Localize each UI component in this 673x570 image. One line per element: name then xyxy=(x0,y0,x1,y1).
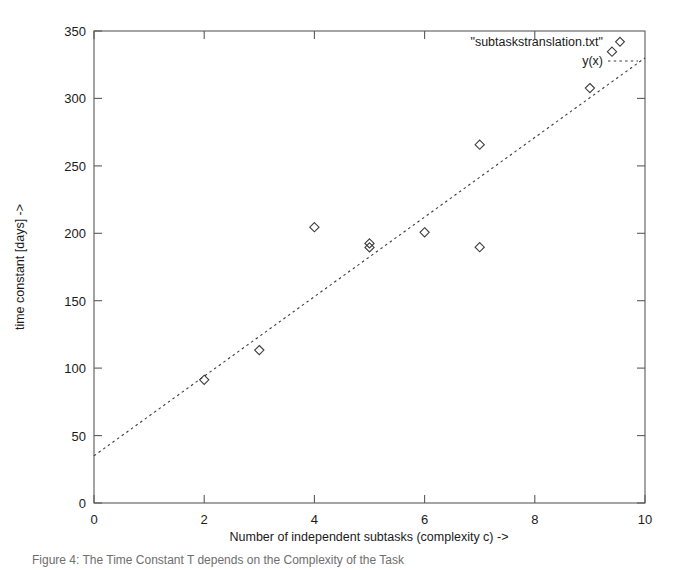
legend-label-dataset: "subtaskstranslation.txt" xyxy=(470,35,603,49)
plot-frame xyxy=(94,31,645,503)
x-tick-label: 10 xyxy=(638,512,652,527)
data-point-marker xyxy=(475,140,484,149)
legend: "subtaskstranslation.txt" y(x) xyxy=(470,35,638,68)
y-tick-label: 350 xyxy=(64,24,86,39)
data-markers xyxy=(200,47,617,384)
y-tick-label: 0 xyxy=(79,496,86,511)
y-tick-label: 50 xyxy=(72,429,86,444)
x-tick-label: 4 xyxy=(311,512,318,527)
data-point-marker xyxy=(420,228,429,237)
data-point-marker xyxy=(475,243,484,252)
y-tick-350: 350 xyxy=(64,24,102,39)
data-point-marker xyxy=(200,375,209,384)
figure-caption-container: Figure 4: The Time Constant T depends on… xyxy=(0,552,673,570)
x-tick-8: 8 xyxy=(531,31,538,527)
y-axis-title: time constant [days] -> xyxy=(13,204,27,330)
x-tick-6: 6 xyxy=(421,31,428,527)
caption-svg: Figure 4: The Time Constant T depends on… xyxy=(0,552,673,570)
y-tick-label: 100 xyxy=(64,361,86,376)
data-point-marker xyxy=(585,84,594,93)
y-tick-label: 300 xyxy=(64,91,86,106)
x-tick-label: 8 xyxy=(531,512,538,527)
x-tick-label: 6 xyxy=(421,512,428,527)
x-tick-4: 4 xyxy=(311,31,318,527)
x-axis: 0 2 4 6 8 xyxy=(90,31,652,527)
y-tick-100: 100 xyxy=(64,361,645,376)
legend-diamond-icon xyxy=(616,37,625,46)
legend-label-fit: y(x) xyxy=(582,54,603,68)
data-point-marker xyxy=(607,47,616,56)
y-tick-label: 200 xyxy=(64,226,86,241)
x-tick-label: 2 xyxy=(201,512,208,527)
figure-caption: Figure 4: The Time Constant T depends on… xyxy=(32,553,405,567)
y-tick-label: 250 xyxy=(64,159,86,174)
scatter-plot-figure: 0 50 100 150 200 xyxy=(0,0,673,570)
x-tick-10: 10 xyxy=(638,495,652,527)
y-tick-250: 250 xyxy=(64,159,645,174)
y-tick-200: 200 xyxy=(64,226,645,241)
y-tick-300: 300 xyxy=(64,91,645,106)
plot-svg: 0 50 100 150 200 xyxy=(0,0,673,570)
trend-line-yx xyxy=(94,58,645,456)
data-point-marker xyxy=(310,223,319,232)
x-axis-title: Number of independent subtasks (complexi… xyxy=(230,530,509,544)
data-point-marker xyxy=(255,346,264,355)
x-tick-label: 0 xyxy=(90,512,97,527)
y-tick-label: 150 xyxy=(64,294,86,309)
x-tick-2: 2 xyxy=(201,31,208,527)
y-tick-50: 50 xyxy=(72,429,645,444)
y-tick-150: 150 xyxy=(64,294,645,309)
